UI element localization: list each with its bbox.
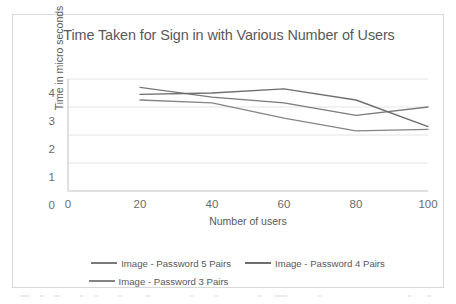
gridlines xyxy=(68,79,428,163)
y-axis-title: Time in micro seconds xyxy=(49,0,63,118)
plot-area xyxy=(68,79,428,191)
chart-frame: Time Taken for Sign in with Various Numb… xyxy=(12,14,444,288)
page-speckle xyxy=(0,291,456,304)
x-tick-label-0: 0 xyxy=(53,197,83,211)
y-axis-title-text: Time in micro seconds xyxy=(53,6,65,111)
legend-line-swatch-icon xyxy=(91,262,117,264)
figure-root: Time Taken for Sign in with Various Numb… xyxy=(0,0,456,304)
x-tick-label-20: 20 xyxy=(125,197,155,211)
legend-line-swatch-icon xyxy=(245,262,271,264)
series-line-3 xyxy=(140,100,428,131)
legend-item-3-pairs[interactable]: Image - Password 3 Pairs xyxy=(89,276,229,287)
legend-row-1: Image - Password 5 Pairs Image - Passwor… xyxy=(73,255,403,271)
y-tick-label-2: 2 xyxy=(39,143,55,155)
chart-title: Time Taken for Sign in with Various Numb… xyxy=(43,26,415,45)
legend-row-2: Image - Password 3 Pairs xyxy=(73,273,403,289)
series-line-2 xyxy=(140,89,428,127)
x-tick-label-60: 60 xyxy=(269,197,299,211)
legend-item-4-pairs[interactable]: Image - Password 4 Pairs xyxy=(245,258,385,269)
legend-label-4-pairs: Image - Password 4 Pairs xyxy=(275,258,385,269)
plot-svg xyxy=(68,79,428,191)
legend-label-5-pairs: Image - Password 5 Pairs xyxy=(121,258,231,269)
y-tick-label-1: 1 xyxy=(39,171,55,183)
x-tick-label-40: 40 xyxy=(197,197,227,211)
x-axis-title: Number of users xyxy=(68,215,428,227)
series-group xyxy=(140,87,428,130)
x-tick-label-100: 100 xyxy=(413,197,443,211)
x-axis-tick-labels: 0 20 40 60 80 100 xyxy=(68,197,428,213)
x-tick-label-80: 80 xyxy=(341,197,371,211)
legend-item-5-pairs[interactable]: Image - Password 5 Pairs xyxy=(91,258,231,269)
legend-line-swatch-icon xyxy=(89,280,115,282)
chart-legend: Image - Password 5 Pairs Image - Passwor… xyxy=(73,255,403,295)
legend-label-3-pairs: Image - Password 3 Pairs xyxy=(119,276,229,287)
